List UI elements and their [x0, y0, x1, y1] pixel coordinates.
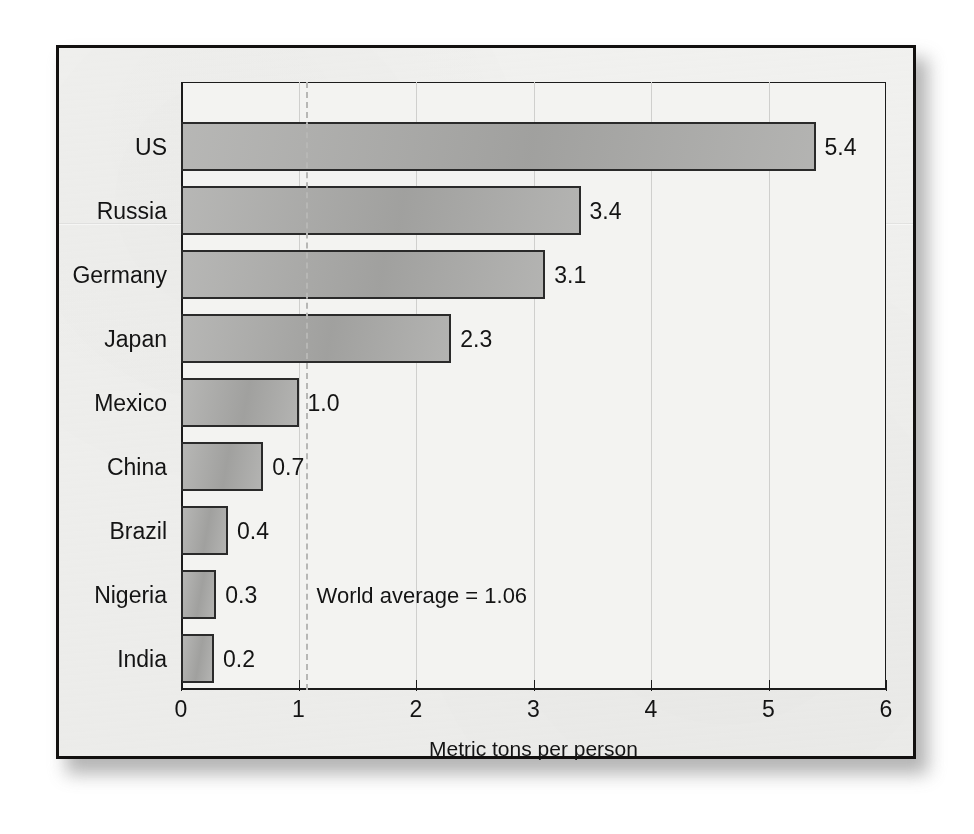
bar: [181, 122, 816, 171]
bar: [181, 570, 216, 619]
figure-stage: US5.4Russia3.4Germany3.1Japan2.3Mexico1.…: [0, 0, 974, 834]
bar-value-label: 0.2: [223, 645, 255, 672]
x-axis-tick-label: 3: [527, 696, 540, 723]
bar-row: Russia3.4: [181, 186, 886, 235]
bar-value-label: 0.7: [272, 453, 304, 480]
category-label: China: [107, 453, 167, 480]
bar-row: China0.7: [181, 442, 886, 491]
bar: [181, 186, 581, 235]
category-label: Brazil: [109, 517, 167, 544]
bar-row: Germany3.1: [181, 250, 886, 299]
category-label: Japan: [104, 325, 167, 352]
category-label: Nigeria: [94, 581, 167, 608]
x-axis-tick: [769, 680, 770, 691]
category-label: US: [135, 133, 167, 160]
bar-row: Brazil0.4: [181, 506, 886, 555]
world-average-annotation: World average = 1.06: [317, 583, 528, 609]
x-axis-tick: [299, 680, 300, 691]
bar-value-label: 3.4: [590, 197, 622, 224]
x-axis-tick-label: 6: [880, 696, 893, 723]
x-axis-tick-label: 5: [762, 696, 775, 723]
x-axis-tick: [416, 680, 417, 691]
category-label: India: [117, 645, 167, 672]
world-average-dashed-line: [306, 82, 308, 690]
bar-row: India0.2: [181, 634, 886, 683]
bar-value-label: 0.4: [237, 517, 269, 544]
bar-row: Nigeria0.3: [181, 570, 886, 619]
x-axis-tick: [886, 680, 887, 691]
bar: [181, 442, 263, 491]
x-axis-tick: [651, 680, 652, 691]
bar-row: Japan2.3: [181, 314, 886, 363]
bar-row: US5.4: [181, 122, 886, 171]
bar-value-label: 0.3: [225, 581, 257, 608]
bar-value-label: 1.0: [308, 389, 340, 416]
bar-value-label: 2.3: [460, 325, 492, 352]
bar-chart-plot-area: US5.4Russia3.4Germany3.1Japan2.3Mexico1.…: [181, 82, 886, 690]
x-axis-tick-label: 4: [645, 696, 658, 723]
bar-value-label: 3.1: [554, 261, 586, 288]
category-label: Germany: [72, 261, 167, 288]
x-axis-tick-label: 2: [410, 696, 423, 723]
bar: [181, 250, 545, 299]
x-axis-tick-label: 0: [175, 696, 188, 723]
category-label: Mexico: [94, 389, 167, 416]
bar: [181, 314, 451, 363]
bar: [181, 506, 228, 555]
figure-frame: US5.4Russia3.4Germany3.1Japan2.3Mexico1.…: [56, 45, 916, 759]
bar-row: Mexico1.0: [181, 378, 886, 427]
x-axis-title: Metric tons per person: [181, 737, 886, 761]
x-axis-tick: [181, 680, 182, 691]
bar-value-label: 5.4: [825, 133, 857, 160]
x-axis-tick-label: 1: [292, 696, 305, 723]
bar: [181, 634, 214, 683]
x-axis-tick: [534, 680, 535, 691]
category-label: Russia: [97, 197, 167, 224]
bar: [181, 378, 299, 427]
